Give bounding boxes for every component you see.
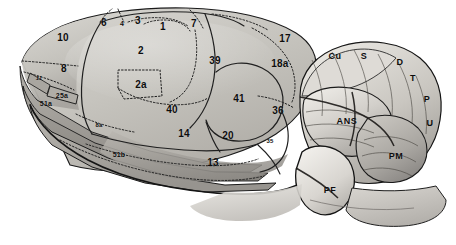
lobule-pf-shape [296,146,355,215]
medulla-block [346,186,446,226]
cerebrum-group [20,8,316,194]
brain-illustration [0,0,456,245]
brain-map-figure: 10643171723918a8112a4125a51a40368a142035… [0,0,456,245]
dorsal-highlight [65,20,275,104]
